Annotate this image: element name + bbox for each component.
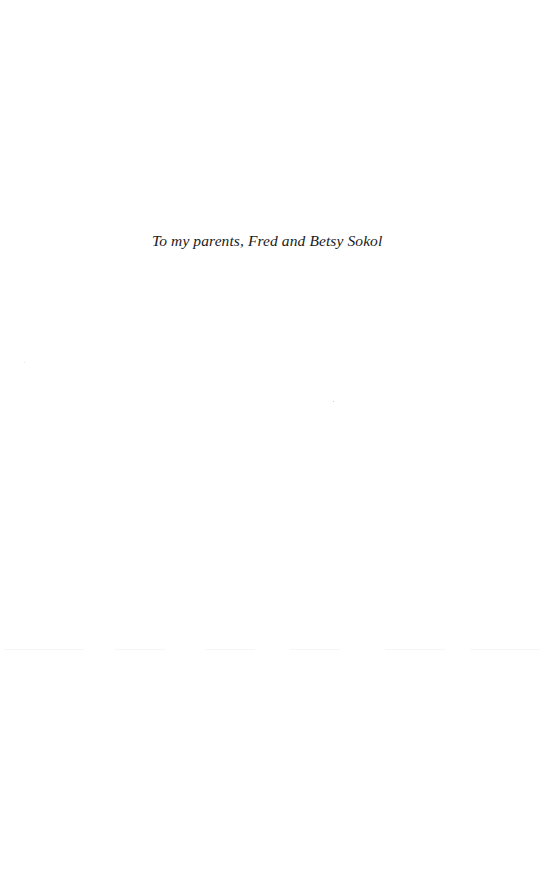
scan-artifact xyxy=(290,649,340,650)
scan-artifact xyxy=(385,649,445,650)
scan-speck xyxy=(333,401,334,402)
book-page: To my parents, Fred and Betsy Sokol xyxy=(0,0,545,882)
dedication-text: To my parents, Fred and Betsy Sokol xyxy=(152,232,382,250)
scan-artifact xyxy=(470,649,540,650)
scan-artifact xyxy=(205,649,255,650)
scan-artifact xyxy=(115,649,165,650)
scan-speck xyxy=(24,362,25,363)
scan-artifact xyxy=(4,649,84,650)
